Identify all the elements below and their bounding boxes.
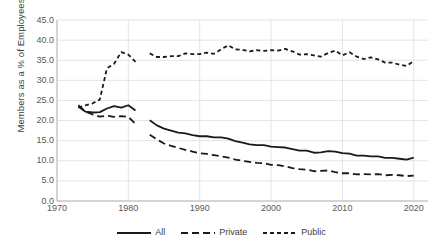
legend-swatch-all (117, 229, 151, 237)
legend-label: All (155, 228, 165, 237)
line-chart: Members as a % of Employees 45.040.035.0… (0, 0, 443, 250)
legend-label: Private (219, 228, 247, 237)
plot-area (0, 0, 443, 250)
legend-item-public[interactable]: Public (263, 228, 326, 237)
legend-swatch-public (263, 229, 297, 237)
legend-label: Public (301, 228, 326, 237)
chart-legend: AllPrivatePublic (0, 228, 443, 237)
legend-item-all[interactable]: All (117, 228, 165, 237)
series-line-public (150, 45, 414, 66)
legend-item-private[interactable]: Private (181, 228, 247, 237)
legend-swatch-private (181, 229, 215, 237)
series-line-all (78, 105, 135, 112)
series-line-all (150, 120, 414, 159)
